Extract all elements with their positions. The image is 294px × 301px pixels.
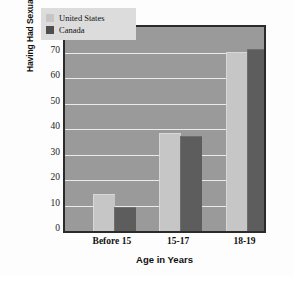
bar-united-states-18-19 — [226, 52, 248, 232]
y-axis-tick-label: 0 — [36, 223, 60, 233]
x-axis-title: Age in Years — [63, 254, 266, 265]
chart-legend: United States Canada — [41, 8, 136, 40]
y-axis-tick-label: 50 — [36, 96, 60, 106]
y-axis-tick-label: 10 — [36, 198, 60, 208]
y-axis-tick-label: 30 — [36, 147, 60, 157]
y-axis-tick-label: 40 — [36, 121, 60, 131]
chart-figure: Having Had Sexual Intercourse Percentage… — [0, 0, 294, 276]
bar-canada-18-19 — [247, 49, 266, 231]
y-axis-tick-label: 20 — [36, 172, 60, 182]
caption-strip — [0, 282, 294, 301]
legend-label-canada: Canada — [59, 25, 85, 35]
y-axis-tick-label: 70 — [36, 45, 60, 55]
bar-canada-before-15 — [114, 207, 136, 231]
y-axis-tick-label: 60 — [36, 70, 60, 80]
legend-item-united-states: United States — [46, 12, 130, 24]
plot-area — [63, 25, 266, 233]
bar-united-states-15-17 — [159, 133, 181, 231]
legend-swatch-icon-canada — [46, 26, 54, 34]
bar-united-states-before-15 — [93, 194, 115, 231]
legend-label-united-states: United States — [59, 13, 105, 23]
y-axis-tick-labels: 01020304050607080 — [33, 25, 60, 233]
bar-canada-15-17 — [180, 136, 202, 231]
legend-item-canada: Canada — [46, 24, 130, 36]
legend-swatch-icon-united-states — [46, 14, 54, 22]
x-axis-tick-label: 18-19 — [205, 236, 285, 246]
x-axis-tick-labels: Before 1515-1718-19 — [63, 236, 266, 250]
